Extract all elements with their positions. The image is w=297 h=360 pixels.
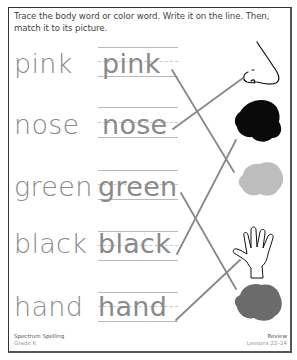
- lessons-range: Lessons 22–24: [247, 340, 287, 347]
- footer-book-info: Spectrum Spelling Grade K: [14, 333, 64, 347]
- hand-picture[interactable]: [233, 227, 273, 278]
- match-line-pink: [172, 70, 234, 172]
- black-color-blob[interactable]: [235, 100, 281, 142]
- match-line-green: [181, 193, 236, 289]
- book-title: Spectrum Spelling: [14, 333, 64, 340]
- nose-picture[interactable]: [244, 42, 279, 84]
- review-label: Review: [247, 333, 287, 340]
- dark-gray-color-blob[interactable]: [235, 284, 282, 321]
- grade-level: Grade K: [14, 340, 64, 347]
- match-line-hand: [176, 260, 240, 320]
- match-line-nose: [173, 78, 243, 129]
- light-gray-color-blob[interactable]: [239, 162, 283, 195]
- footer-lesson-info: Review Lessons 22–24: [247, 333, 287, 347]
- match-lines-layer: [0, 0, 297, 360]
